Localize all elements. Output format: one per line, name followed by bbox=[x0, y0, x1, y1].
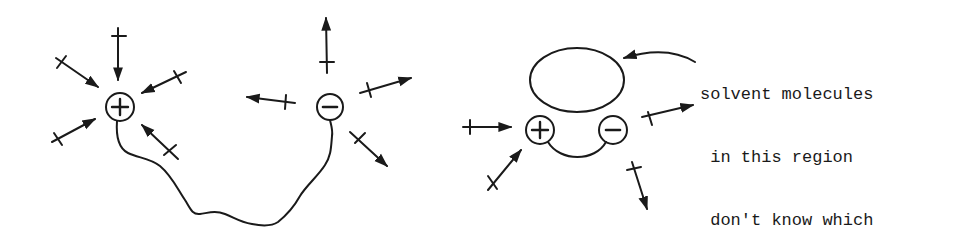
left-negative-dipole-arrows bbox=[247, 18, 411, 166]
right-positive-ion bbox=[526, 116, 554, 144]
annotation-line-1: solvent molecules bbox=[700, 84, 940, 105]
annotation-line-3: don't know which bbox=[700, 210, 940, 231]
right-negative-ion bbox=[599, 116, 627, 144]
annotation-line-2: in this region bbox=[700, 147, 940, 168]
left-positive-ion bbox=[106, 93, 134, 121]
callout-arrow bbox=[624, 52, 695, 62]
left-negative-ion bbox=[317, 94, 343, 120]
uncertain-region-ellipse bbox=[530, 48, 624, 112]
right-tether-arc bbox=[548, 142, 606, 157]
annotation-text: solvent molecules in this region don't k… bbox=[700, 42, 940, 242]
left-tether-chain bbox=[117, 120, 333, 225]
